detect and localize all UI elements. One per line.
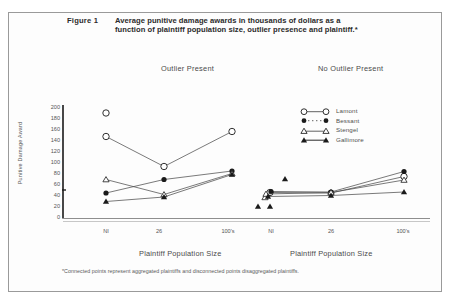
legend-label-lamont: Lamont: [336, 107, 358, 114]
page-title: Average punitive damage awards in thousa…: [115, 16, 363, 35]
x-axis-title-left: Plaintiff Population Size: [139, 249, 222, 258]
x-tick-right-26: 26: [318, 228, 344, 234]
x-tick-left-ni: NI: [93, 228, 119, 234]
y-tick-0: 0: [42, 215, 60, 221]
panel-header-no-outlier-present: No Outlier Present: [318, 64, 383, 73]
chart-legend: Lamont Bessant Stengel Gallimore: [300, 107, 362, 145]
legend-marker-filled-circle: [300, 116, 332, 125]
x-tick-right-100s: 100's: [390, 228, 416, 234]
legend-item-stengel: Stengel: [300, 126, 362, 135]
legend-label-bessant: Bessant: [336, 117, 359, 124]
x-tick-right-ni: NI: [258, 228, 284, 234]
legend-item-gallimore: Gallimore: [300, 135, 362, 144]
legend-marker-filled-triangle: [300, 135, 332, 144]
legend-label-gallimore: Gallimore: [336, 136, 364, 143]
figure-footnote: *Connected points represent aggregated p…: [62, 268, 299, 274]
figure-number: Figure 1: [67, 16, 98, 25]
legend-item-lamont: Lamont: [300, 107, 362, 116]
y-tick-100: 100: [42, 160, 60, 166]
y-tick-140: 140: [42, 138, 60, 144]
legend-marker-open-circle: [300, 107, 332, 116]
legend-label-stengel: Stengel: [336, 126, 358, 133]
x-tick-left-100s: 100's: [215, 228, 241, 234]
y-tick-20: 20: [42, 204, 60, 210]
y-axis-title: Punitive Damage Award: [17, 107, 23, 199]
y-tick-160: 160: [42, 127, 60, 133]
legend-item-bessant: Bessant: [300, 116, 362, 125]
x-tick-left-26: 26: [146, 228, 172, 234]
y-tick-200: 200: [42, 105, 60, 111]
y-tick-180: 180: [42, 116, 60, 122]
legend-marker-open-triangle: [300, 126, 332, 135]
y-axis-tick-labels: 200 180 160 140 120 100 80 60 40 20 0: [40, 0, 60, 307]
y-tick-40: 40: [42, 193, 60, 199]
x-axis-title-right: Plaintiff Population Size: [290, 249, 373, 258]
y-tick-80: 80: [42, 171, 60, 177]
y-tick-60: 60: [42, 182, 60, 188]
y-tick-120: 120: [42, 149, 60, 155]
figure-border: [8, 12, 442, 292]
panel-header-outlier-present: Outlier Present: [161, 64, 214, 73]
